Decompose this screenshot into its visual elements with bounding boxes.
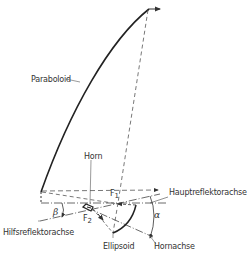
main-axis-leader <box>150 197 168 203</box>
label-paraboloid: Paraboloid <box>31 75 71 84</box>
ellipsoid-curve <box>113 205 136 233</box>
label-beta: β <box>52 207 58 217</box>
ray-top-to-focus <box>118 10 148 203</box>
ray-focus-to-ellipsoid <box>113 203 118 233</box>
label-alpha: α <box>154 210 160 220</box>
antenna-diagram: Paraboloid Horn Hauptreflektorachse Hilf… <box>0 0 247 258</box>
label-ellipsoid: Ellipsoid <box>103 242 134 251</box>
label-f2: F2 <box>83 214 92 225</box>
label-sub-axis: Hilfsreflektorachse <box>3 228 74 237</box>
beta-arc <box>62 203 64 217</box>
ray-lower-edge <box>42 190 158 191</box>
paraboloid-curve <box>41 9 149 192</box>
horn-icon <box>83 204 93 211</box>
ray-ellipsoid-to-f1 <box>118 204 136 205</box>
horn-leader <box>90 160 91 204</box>
horn-axis <box>88 208 153 237</box>
ray-arrow-small <box>98 214 103 220</box>
label-horn-axis: Hornachse <box>154 242 195 251</box>
label-horn: Horn <box>84 152 102 161</box>
ray-horn-to-ellipsoid <box>93 209 113 233</box>
label-main-axis: Hauptreflektorachse <box>169 188 247 197</box>
